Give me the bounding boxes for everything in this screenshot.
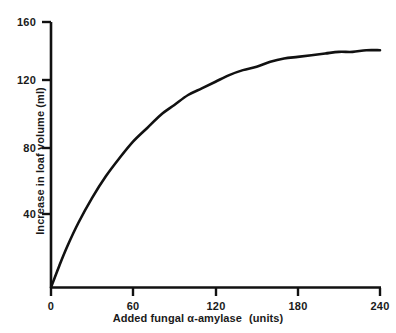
- y-axis-title: Increase in loaf volume (ml): [34, 61, 46, 261]
- plot-area: [0, 0, 396, 333]
- x-tick-label-180: 180: [289, 300, 308, 312]
- data-series-line: [51, 50, 380, 287]
- x-tick-label-0: 0: [48, 300, 54, 312]
- x-axis-title-units: (units): [249, 312, 283, 324]
- x-tick-label-120: 120: [207, 300, 226, 312]
- x-axis-title-main: Added fungal α-amylase: [113, 312, 242, 324]
- y-tick-label-120: 120: [0, 74, 36, 86]
- x-axis-title: Added fungal α-amylase(units): [0, 312, 396, 324]
- y-tick-label-40: 40: [0, 208, 36, 220]
- x-tick-marks: [51, 288, 380, 296]
- chart-figure: 160 120 80 40 0 60 120 180 240 Increase …: [0, 0, 396, 333]
- y-tick-label-80: 80: [0, 142, 36, 154]
- y-tick-label-160: 160: [0, 16, 36, 28]
- x-tick-label-60: 60: [127, 300, 140, 312]
- x-tick-label-240: 240: [371, 300, 390, 312]
